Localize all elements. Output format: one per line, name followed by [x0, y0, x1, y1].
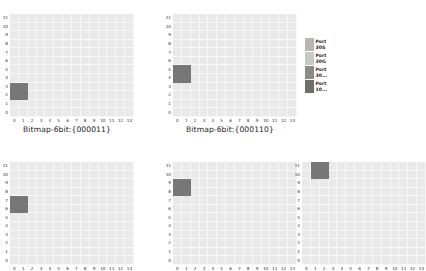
heatmap-cell[interactable] [107, 205, 116, 214]
heatmap-cell[interactable] [10, 40, 19, 49]
heatmap-cell[interactable] [81, 83, 90, 92]
heatmap-cell[interactable] [244, 108, 253, 117]
heatmap-cell[interactable] [72, 100, 81, 109]
heatmap-cell[interactable] [262, 162, 271, 171]
heatmap-cell[interactable] [19, 91, 28, 100]
heatmap-cell[interactable] [373, 239, 382, 248]
heatmap-cell[interactable] [72, 14, 81, 23]
heatmap-cell[interactable] [244, 40, 253, 49]
heatmap-cell[interactable] [173, 213, 182, 222]
heatmap-cell[interactable] [399, 239, 408, 248]
heatmap-cell[interactable] [28, 205, 37, 214]
heatmap-cell[interactable] [37, 222, 46, 231]
heatmap-cell[interactable] [99, 205, 108, 214]
heatmap-cell[interactable] [10, 188, 19, 197]
heatmap-cell[interactable] [346, 171, 355, 180]
heatmap-cell[interactable] [337, 205, 346, 214]
heatmap-cell[interactable] [107, 57, 116, 66]
heatmap-cell[interactable] [217, 83, 226, 92]
heatmap-cell[interactable] [99, 188, 108, 197]
heatmap-cell[interactable] [270, 213, 279, 222]
heatmap-cell[interactable] [45, 179, 54, 188]
heatmap-cell[interactable] [391, 222, 400, 231]
heatmap-cell[interactable] [208, 205, 217, 214]
heatmap-cell[interactable] [182, 179, 191, 188]
heatmap-cell[interactable] [270, 222, 279, 231]
heatmap-cell[interactable] [262, 108, 271, 117]
heatmap-cell[interactable] [191, 205, 200, 214]
heatmap-cell[interactable] [99, 248, 108, 257]
heatmap-cell[interactable] [54, 57, 63, 66]
heatmap-cell[interactable] [200, 23, 209, 32]
heatmap-cell[interactable] [262, 248, 271, 257]
heatmap-cell[interactable] [355, 162, 364, 171]
heatmap-cell[interactable] [28, 40, 37, 49]
heatmap-cell[interactable] [19, 108, 28, 117]
heatmap-cell[interactable] [373, 231, 382, 240]
heatmap-cell[interactable] [253, 14, 262, 23]
heatmap-cell[interactable] [235, 171, 244, 180]
heatmap-cell[interactable] [45, 188, 54, 197]
heatmap-cell[interactable] [200, 231, 209, 240]
heatmap-cell[interactable] [81, 162, 90, 171]
heatmap-cell[interactable] [279, 222, 288, 231]
heatmap-cell[interactable] [99, 100, 108, 109]
heatmap-cell[interactable] [116, 162, 125, 171]
heatmap-cell[interactable] [200, 14, 209, 23]
heatmap-cell[interactable] [355, 188, 364, 197]
heatmap-cell[interactable] [200, 91, 209, 100]
heatmap-cell[interactable] [262, 205, 271, 214]
heatmap-cell[interactable] [10, 31, 19, 40]
heatmap-cell[interactable] [125, 83, 134, 92]
heatmap-cell[interactable] [391, 196, 400, 205]
heatmap-cell[interactable] [364, 213, 373, 222]
heatmap-cell[interactable] [116, 108, 125, 117]
heatmap-cell[interactable] [107, 162, 116, 171]
heatmap-cell[interactable] [200, 57, 209, 66]
heatmap-cell[interactable] [382, 248, 391, 257]
heatmap-cell[interactable] [253, 162, 262, 171]
heatmap-cell[interactable] [28, 222, 37, 231]
heatmap-cell[interactable] [72, 31, 81, 40]
heatmap-cell[interactable] [244, 171, 253, 180]
heatmap-cell[interactable] [81, 239, 90, 248]
heatmap-cell[interactable] [235, 179, 244, 188]
heatmap-cell[interactable] [63, 74, 72, 83]
heatmap-cell[interactable] [182, 196, 191, 205]
heatmap-cell[interactable] [54, 108, 63, 117]
heatmap-cell[interactable] [125, 100, 134, 109]
heatmap-cell[interactable] [90, 91, 99, 100]
heatmap-cell[interactable] [217, 213, 226, 222]
heatmap-cell[interactable] [125, 91, 134, 100]
heatmap-cell[interactable] [208, 108, 217, 117]
heatmap-cell[interactable] [191, 91, 200, 100]
heatmap-cell[interactable] [63, 57, 72, 66]
heatmap-cell[interactable] [54, 83, 63, 92]
heatmap-cell[interactable] [116, 48, 125, 57]
heatmap-cell[interactable] [262, 256, 271, 265]
heatmap-cell[interactable] [125, 162, 134, 171]
heatmap-cell[interactable] [182, 205, 191, 214]
heatmap-cell[interactable] [244, 91, 253, 100]
heatmap-cell[interactable] [99, 179, 108, 188]
heatmap-cell[interactable] [235, 48, 244, 57]
heatmap-cell[interactable] [270, 171, 279, 180]
heatmap-cell[interactable] [208, 57, 217, 66]
heatmap-cell[interactable] [408, 239, 417, 248]
heatmap-cell[interactable] [200, 65, 209, 74]
heatmap-cell[interactable] [217, 196, 226, 205]
heatmap-cell[interactable] [173, 256, 182, 265]
heatmap-cell[interactable] [72, 23, 81, 32]
heatmap-cell[interactable] [125, 222, 134, 231]
heatmap-cell[interactable] [235, 188, 244, 197]
heatmap-cell[interactable] [253, 231, 262, 240]
heatmap-cell[interactable] [337, 162, 346, 171]
heatmap-cell[interactable] [19, 100, 28, 109]
heatmap-cell[interactable] [81, 48, 90, 57]
heatmap-cell[interactable] [208, 256, 217, 265]
heatmap-cell[interactable] [417, 248, 426, 257]
legend-row[interactable]: Port 30... [305, 66, 327, 79]
heatmap-cell[interactable] [244, 248, 253, 257]
heatmap-cell[interactable] [235, 83, 244, 92]
heatmap-cell[interactable] [200, 31, 209, 40]
